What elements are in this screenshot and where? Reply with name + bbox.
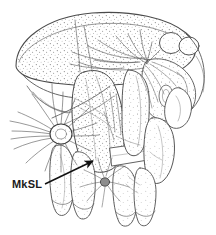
- mksl-label: MkSL: [12, 178, 42, 190]
- drawing-ink-group: [10, 12, 204, 226]
- figure-container: MkSL: [0, 0, 216, 235]
- leg-middle-distal: [134, 168, 156, 226]
- leg-middle-anterior: [113, 166, 138, 226]
- insect-morphology-drawing: MkSL: [0, 0, 216, 235]
